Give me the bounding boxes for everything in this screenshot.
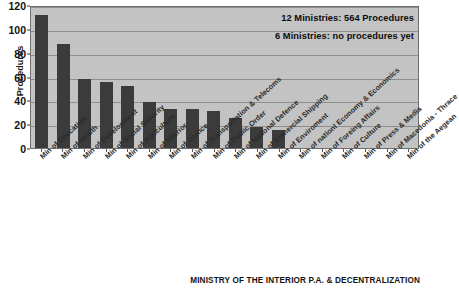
x-axis-category-labels: Min of EducationMin of HealthMin of Deve… [30,151,419,271]
y-axis-tick-label: 100 [8,24,26,36]
bar [35,15,48,148]
y-axis-tick-label: 60 [14,72,26,84]
footer-caption: MINISTRY OF THE INTERIOR P.A. & DECENTRA… [0,276,420,285]
y-axis-tick-label: 20 [14,119,26,131]
y-axis-tick-labels: 020406080100120 [0,0,30,155]
y-axis-tick-label: 40 [14,95,26,107]
y-axis-tick-label: 0 [20,143,26,155]
y-axis-tick-label: 80 [14,48,26,60]
y-axis-tick-label: 120 [8,0,26,12]
